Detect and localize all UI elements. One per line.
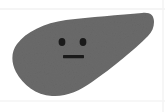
mouth-icon — [63, 55, 84, 58]
left-eye-icon — [59, 38, 66, 46]
liver-character-illustration — [0, 0, 165, 112]
right-eye-icon — [80, 38, 87, 46]
illustration-canvas: Liver character — [0, 0, 165, 112]
